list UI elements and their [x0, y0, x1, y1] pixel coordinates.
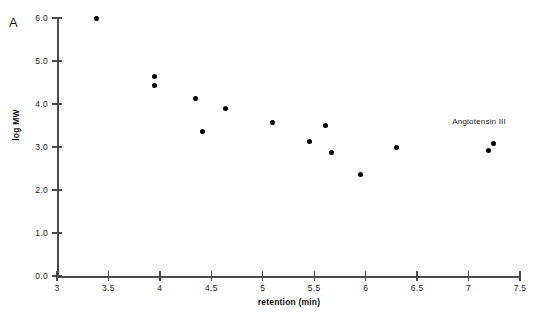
data-point — [358, 172, 363, 177]
data-point — [152, 83, 157, 88]
x-tick — [314, 271, 315, 281]
x-tick-label: 5.5 — [294, 283, 334, 293]
x-tick-label: 7 — [449, 283, 489, 293]
data-point — [323, 123, 328, 128]
x-tick — [416, 271, 417, 281]
x-axis-label: retention (min) — [57, 297, 521, 307]
y-tick-label: 5.0 — [4, 56, 48, 66]
data-point — [307, 139, 312, 144]
x-tick — [468, 271, 469, 281]
y-tick-label: 1.0 — [4, 228, 48, 238]
y-tick — [52, 103, 62, 104]
data-point — [394, 145, 399, 150]
x-tick-label: 4 — [140, 283, 180, 293]
x-tick — [262, 271, 263, 281]
y-tick-label: 2.0 — [4, 185, 48, 195]
data-point — [486, 148, 491, 153]
x-tick — [56, 271, 57, 281]
x-tick-label: 3 — [37, 283, 77, 293]
y-tick — [52, 146, 62, 147]
x-tick — [211, 271, 212, 281]
x-tick-label: 6.5 — [397, 283, 437, 293]
y-tick-label: 6.0 — [4, 13, 48, 23]
x-tick-label: 7.5 — [500, 283, 540, 293]
data-point — [152, 74, 157, 79]
data-point — [94, 16, 99, 21]
x-tick — [108, 271, 109, 281]
x-tick — [519, 271, 520, 281]
scatter-plot-area: 0.01.02.03.04.05.06.0 33.544.555.566.577… — [0, 0, 544, 322]
y-tick-label: 0.0 — [4, 271, 48, 281]
figure-panel-a: A 0.01.02.03.04.05.06.0 33.544.555.566.5… — [0, 0, 544, 322]
y-axis-label: log MW — [11, 85, 21, 165]
x-axis-line — [57, 276, 521, 278]
data-point — [270, 120, 275, 125]
y-tick — [52, 232, 62, 233]
data-point — [491, 141, 496, 146]
x-tick-label: 5 — [243, 283, 283, 293]
data-point — [193, 96, 198, 101]
x-tick-label: 6 — [346, 283, 386, 293]
data-point — [200, 129, 205, 134]
x-tick-label: 3.5 — [88, 283, 128, 293]
y-tick — [52, 17, 62, 18]
y-tick — [52, 189, 62, 190]
x-tick — [159, 271, 160, 281]
point-annotation: Angiotensin III — [452, 117, 506, 126]
data-point — [223, 106, 228, 111]
data-point — [329, 150, 334, 155]
x-tick-label: 4.5 — [191, 283, 231, 293]
x-tick — [365, 271, 366, 281]
y-tick — [52, 60, 62, 61]
